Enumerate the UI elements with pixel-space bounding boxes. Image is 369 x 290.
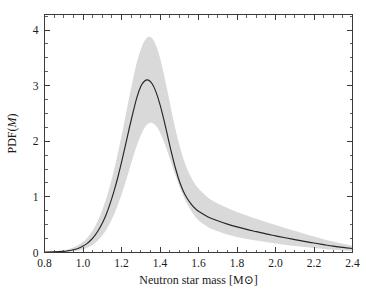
uncertainty-band-path [45,37,353,253]
y-tick-label: 1 [33,191,39,203]
y-tick-label: 3 [33,80,39,92]
x-tick-label: 2.0 [268,257,283,269]
y-axis-title-text: PDF(M) [5,113,19,153]
median-curve [45,80,353,252]
x-tick-label: 1.8 [230,257,245,269]
y-tick-label: 2 [33,135,39,147]
pdf-neutron-star-mass-chart: 0.81.01.21.41.61.82.02.22.4 01234 Neutro… [0,0,369,290]
x-tick-label: 1.0 [76,257,91,269]
x-tick-label: 0.8 [37,257,52,269]
y-tick-label: 0 [33,247,39,259]
y-axis-title: PDF(M) [5,113,19,153]
x-tick-label: 1.4 [153,257,168,269]
y-tick-label: 4 [33,24,39,36]
x-tick-label: 1.2 [114,257,129,269]
x-tick-label: 2.2 [307,257,322,269]
uncertainty-band [45,37,353,253]
x-axis-title: Neutron star mass [M⊙] [139,273,257,287]
median-curve-path [45,80,353,252]
x-tick-label: 2.4 [345,257,360,269]
x-tick-label: 1.6 [191,257,206,269]
x-axis-title-text: Neutron star mass [M⊙] [139,273,257,287]
x-axis-tick-labels: 0.81.01.21.41.61.82.02.22.4 [37,257,360,269]
y-axis-tick-labels: 01234 [33,24,39,258]
figure-container: 0.81.01.21.41.61.82.02.22.4 01234 Neutro… [0,0,369,290]
